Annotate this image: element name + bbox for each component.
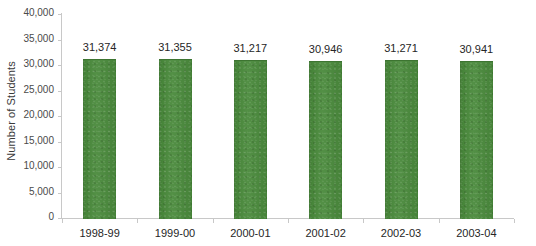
y-axis-title-text: Number of Students xyxy=(5,61,17,161)
bar-group: 31,2172000-01 xyxy=(234,14,267,219)
bar-group: 30,9412003-04 xyxy=(460,14,493,219)
x-axis-category-label: 2001-02 xyxy=(293,227,358,239)
x-axis-category-label: 2000-01 xyxy=(218,227,283,239)
bar-chart: Number of Students 05,00010,00015,00020,… xyxy=(0,0,536,246)
bar[interactable] xyxy=(385,60,418,219)
x-axis-tick-mark xyxy=(213,219,214,223)
bar-value-label: 31,355 xyxy=(145,41,206,53)
y-axis-tick-label: 0 xyxy=(48,211,54,222)
bar-value-label: 31,374 xyxy=(69,41,130,53)
bar-value-label: 30,941 xyxy=(446,43,507,55)
x-axis-tick-mark xyxy=(137,219,138,223)
bar-group: 30,9462001-02 xyxy=(309,14,342,219)
x-axis-tick-mark xyxy=(439,219,440,223)
y-axis-tick-label: 10,000 xyxy=(23,160,54,171)
x-axis-tick-mark xyxy=(514,219,515,223)
bar-value-label: 31,217 xyxy=(220,42,281,54)
bar[interactable] xyxy=(159,59,192,219)
y-axis-tick-label: 35,000 xyxy=(23,33,54,44)
bar[interactable] xyxy=(83,59,116,219)
x-axis-category-label: 2003-04 xyxy=(444,227,509,239)
bar-group: 31,2712002-03 xyxy=(385,14,418,219)
x-axis-category-label: 2002-03 xyxy=(369,227,434,239)
bar-value-label: 30,946 xyxy=(295,43,356,55)
x-axis-category-label: 1998-99 xyxy=(67,227,132,239)
bar[interactable] xyxy=(234,60,267,219)
y-axis-tick-label: 40,000 xyxy=(23,7,54,18)
x-axis-tick-mark xyxy=(288,219,289,223)
bar-value-label: 31,271 xyxy=(371,42,432,54)
plot-area: 31,3741998-9931,3551999-0031,2172000-013… xyxy=(62,14,514,219)
y-axis-tick-label: 25,000 xyxy=(23,84,54,95)
x-axis-tick-mark xyxy=(363,219,364,223)
y-axis-tick-label: 30,000 xyxy=(23,58,54,69)
y-axis-tick-label: 5,000 xyxy=(29,186,54,197)
y-axis-title: Number of Students xyxy=(0,0,22,222)
y-axis-tick-label: 20,000 xyxy=(23,109,54,120)
y-axis-tick-label: 15,000 xyxy=(23,135,54,146)
bar-group: 31,3741998-99 xyxy=(83,14,116,219)
bar[interactable] xyxy=(309,61,342,219)
x-axis-tick-mark xyxy=(62,219,63,223)
bar-group: 31,3551999-00 xyxy=(159,14,192,219)
bar[interactable] xyxy=(460,61,493,219)
x-axis-category-label: 1999-00 xyxy=(143,227,208,239)
